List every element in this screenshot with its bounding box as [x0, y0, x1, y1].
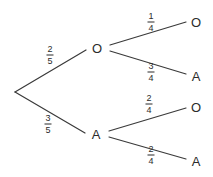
fraction-denominator: 5: [44, 126, 51, 135]
probability-tree-diagram: O A O A O A 2 5 3 5 1 4 3 4 2 4 2 4: [0, 0, 213, 177]
probability-label-o-to-a: 3 4: [147, 62, 154, 83]
node-leaf-a-a: A: [192, 155, 201, 168]
fraction-denominator: 4: [145, 106, 152, 115]
tree-branches: [0, 0, 213, 177]
fraction-numerator: 2: [147, 145, 154, 154]
fraction-denominator: 5: [46, 57, 53, 66]
node-leaf-a-o: O: [191, 101, 201, 114]
probability-label-o-to-o: 1 4: [147, 12, 154, 33]
fraction-denominator: 4: [147, 157, 154, 166]
probability-label-a-to-a: 2 4: [147, 145, 154, 166]
fraction-denominator: 4: [147, 74, 154, 83]
fraction-numerator: 3: [147, 62, 154, 71]
node-level1-o: O: [92, 42, 102, 55]
node-leaf-o-a: A: [192, 70, 201, 83]
fraction-denominator: 4: [147, 24, 154, 33]
fraction-numerator: 2: [145, 94, 152, 103]
probability-label-root-to-a: 3 5: [44, 114, 51, 135]
fraction-numerator: 3: [44, 114, 51, 123]
node-level1-a: A: [92, 128, 101, 141]
node-leaf-o-o: O: [191, 16, 201, 29]
fraction-numerator: 1: [147, 12, 154, 21]
fraction-numerator: 2: [46, 45, 53, 54]
probability-label-a-to-o: 2 4: [145, 94, 152, 115]
probability-label-root-to-o: 2 5: [46, 45, 53, 66]
